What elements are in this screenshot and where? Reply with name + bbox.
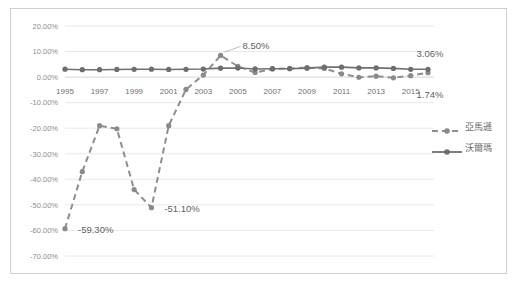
x-axis-tick-label: 1999	[125, 87, 143, 96]
data-point-walmart	[287, 66, 292, 71]
amazon-trough-label: -51.10%	[164, 203, 200, 214]
amazon-end-label: 1.74%	[417, 89, 444, 100]
data-point-walmart	[356, 65, 361, 70]
amazon-start-label: -59.30%	[78, 224, 114, 235]
x-axis-tick-label: 2003	[194, 87, 212, 96]
legend-swatch-walmart-icon	[432, 143, 462, 153]
data-point-walmart	[408, 67, 413, 72]
data-point-amazon	[166, 123, 171, 128]
series-line-amazon	[65, 55, 428, 228]
y-axis-tick-label: -40.00%	[30, 175, 58, 184]
data-point-amazon	[114, 126, 119, 131]
data-point-walmart	[183, 67, 188, 72]
y-axis-tick-labels: 20.00%10.00%0.00%-10.00%-20.00%-30.00%-4…	[30, 22, 58, 261]
data-point-walmart	[97, 67, 102, 72]
data-point-walmart	[304, 66, 309, 71]
data-point-walmart	[114, 67, 119, 72]
chart-container: 亞馬遜與沃爾瑪淨利率 20.00%10.00%0.00%-10.00%-20.0…	[0, 0, 525, 289]
data-point-amazon	[408, 73, 413, 78]
y-axis-tick-label: -60.00%	[30, 226, 58, 235]
data-point-walmart	[322, 65, 327, 70]
data-point-amazon	[201, 72, 206, 77]
y-axis-tick-label: 10.00%	[33, 47, 59, 56]
y-axis-tick-label: -10.00%	[30, 98, 58, 107]
data-point-amazon	[132, 187, 137, 192]
x-axis-tick-label: 1995	[56, 87, 74, 96]
data-point-walmart	[62, 67, 67, 72]
data-point-amazon	[391, 75, 396, 80]
y-axis-tick-label: -50.00%	[30, 201, 58, 210]
x-axis-tick-label: 1997	[91, 87, 109, 96]
data-point-walmart	[235, 65, 240, 70]
x-axis-tick-label: 2011	[333, 87, 351, 96]
x-axis-tick-label: 2007	[264, 87, 282, 96]
gridlines	[65, 26, 434, 256]
data-point-walmart	[201, 66, 206, 71]
legend-item-amazon[interactable]: 亞馬遜	[432, 116, 510, 137]
x-axis-tick-labels: 1995199719992001200320052007200920112013…	[56, 87, 420, 96]
data-point-walmart	[374, 65, 379, 70]
walmart-end-label: 3.06%	[417, 48, 444, 59]
data-point-amazon	[374, 74, 379, 79]
x-axis-tick-label: 2009	[298, 87, 316, 96]
data-point-walmart	[80, 67, 85, 72]
data-point-walmart	[166, 67, 171, 72]
y-axis-tick-label: 20.00%	[33, 22, 59, 31]
data-point-walmart	[391, 66, 396, 71]
data-point-amazon	[62, 226, 67, 231]
data-point-amazon	[218, 53, 223, 58]
data-point-walmart	[218, 66, 223, 71]
chart-legend: 亞馬遜 沃爾瑪	[432, 116, 510, 158]
data-point-amazon	[97, 123, 102, 128]
legend-swatch-amazon-icon	[432, 122, 462, 132]
legend-item-walmart[interactable]: 沃爾瑪	[432, 137, 510, 158]
x-axis-tick-label: 2013	[367, 87, 385, 96]
y-axis-tick-label: -70.00%	[30, 252, 58, 261]
data-point-walmart	[132, 67, 137, 72]
data-point-amazon	[149, 205, 154, 210]
data-point-walmart	[149, 67, 154, 72]
data-point-walmart	[339, 65, 344, 70]
data-point-walmart	[253, 66, 258, 71]
data-point-walmart	[425, 67, 430, 72]
data-point-amazon	[339, 71, 344, 76]
x-axis-tick-label: 2005	[229, 87, 247, 96]
legend-label-amazon: 亞馬遜	[465, 120, 492, 133]
data-point-amazon	[80, 169, 85, 174]
x-axis-tick-label: 2001	[160, 87, 178, 96]
amazon-peak-label: 8.50%	[243, 40, 270, 51]
legend-label-walmart: 沃爾瑪	[465, 141, 492, 154]
y-axis-tick-label: -30.00%	[30, 150, 58, 159]
data-point-amazon	[183, 87, 188, 92]
data-point-amazon	[356, 75, 361, 80]
y-axis-tick-label: 0.00%	[37, 73, 59, 82]
data-point-walmart	[270, 66, 275, 71]
y-axis-tick-label: -20.00%	[30, 124, 58, 133]
